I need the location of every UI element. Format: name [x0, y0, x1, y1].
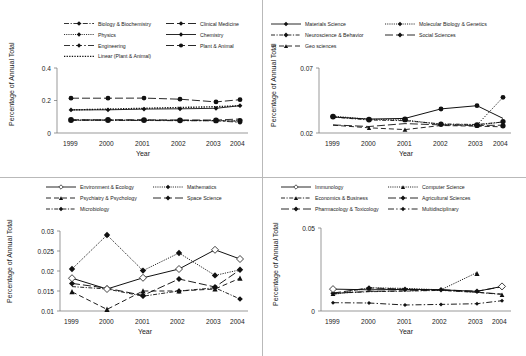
filled-diamond-icon [398, 33, 403, 38]
chart-panel-2: Materials Science Neuroscience & Behavio… [263, 0, 526, 178]
filled-diamond-icon [166, 196, 171, 201]
legend-label: Plant & Animal [200, 43, 234, 49]
x-axis-title: Year [138, 328, 153, 335]
legend-entry-chemistry: Chemistry [166, 32, 224, 38]
filled-diamond-icon [401, 196, 406, 201]
series-line-rising-trend [477, 97, 503, 125]
filled-circle-icon [179, 43, 183, 47]
x-tick-label: 2004 [492, 318, 507, 325]
legend-label: Psychiatry & Psychology [80, 195, 137, 201]
legend-label: Linear (Plant & Animal) [98, 53, 151, 59]
legend-label: Molecular Biology & Genetics [419, 21, 487, 27]
legend-label: Computer Science [422, 184, 465, 190]
legend-label: Social Sciences [419, 32, 456, 38]
panel-3-legend: Environment & Ecology Psychiatry & Psych… [46, 184, 222, 212]
x-tick-label: 1999 [325, 140, 340, 147]
filled-diamond-icon [77, 43, 81, 47]
y-tick-label: 0.01 [41, 308, 54, 315]
legend-entry-biology-biochemistry: Biology & Biochemistry [64, 21, 151, 27]
x-tick-label: 2003 [468, 318, 483, 325]
legend-label: Microbiology [80, 206, 110, 212]
x-tick-label: 2000 [99, 318, 114, 325]
panel-3-series [69, 232, 244, 312]
legend-entry-geo-sciences: Geo sciences [271, 43, 337, 49]
panel-1-svg: Biology & Biochemistry Physics Engineeri… [0, 0, 263, 178]
panel-2-series [330, 95, 506, 132]
x-tick-label: 2001 [397, 318, 412, 325]
panel-4-series [330, 271, 506, 307]
x-tick-label: 2004 [230, 318, 245, 325]
legend-entry-agricultural-sciences: Agricultural Sciences [388, 195, 471, 201]
y-tick-label: 0.4 [42, 65, 51, 72]
legend-label: Geo sciences [305, 43, 337, 49]
x-tick-label: 2000 [361, 140, 376, 147]
legend-entry-social-sciences: Social Sciences [385, 32, 456, 38]
legend-entry-pharmacology-toxicology: Pharmacology & Toxicology [281, 206, 379, 212]
x-tick-label: 2000 [361, 318, 376, 325]
y-tick-label: 0.05 [302, 225, 315, 232]
legend-entry-economics-business: Economics & Business [281, 195, 368, 201]
panel-1-yaxis-title: Percentage of Annual Total [8, 42, 16, 126]
legend-entry-psychiatry-psychology: Psychiatry & Psychology [46, 195, 137, 201]
x-tick-label: 1999 [63, 140, 78, 147]
legend-entry-computer-science: Computer Science [388, 184, 465, 190]
x-tick-label: 2003 [206, 140, 221, 147]
x-tick-label: 2003 [206, 318, 221, 325]
svg-text:Percentage of Annual Total: Percentage of Annual Total [8, 42, 16, 126]
legend-entry-space-science: Space Science [153, 195, 222, 201]
legend-entry-mathematics: Mathematics [153, 184, 217, 190]
x-tick-label: 2002 [432, 318, 447, 325]
series-line-psychiatry-psychology [72, 278, 240, 309]
legend-label: Chemistry [200, 32, 224, 38]
legend-label: Agricultural Sciences [422, 195, 471, 201]
x-tick-label: 2002 [433, 140, 448, 147]
legend-entry-linear-plant-animal: Linear (Plant & Animal) [64, 53, 151, 59]
legend-entry-physics: Physics [64, 32, 116, 38]
filled-diamond-icon [59, 207, 63, 211]
panel-4-svg: Immunology Economics & Business Pharmaco… [263, 178, 526, 356]
filled-diamond-icon [179, 32, 183, 36]
y-tick-label: 0.025 [37, 248, 54, 255]
panel-3-yaxis-title: Percentage of Annual Total [6, 219, 14, 303]
legend-entry-microbiology: Microbiology [46, 206, 110, 212]
x-tick-label: 2002 [170, 318, 185, 325]
legend-label: Mathematics [187, 184, 217, 190]
x-tick-label: 1999 [64, 318, 79, 325]
legend-label: Engineering [98, 43, 126, 49]
y-tick-label: 0.03 [41, 228, 54, 235]
panel-4-axes: 0.05 0 1999 2000 2001 2002 2003 2004 Yea… [302, 225, 511, 335]
x-tick-label: 2004 [230, 140, 245, 147]
panel-2-axes: 0.07 0.02 1999 2000 2001 2002 2003 2004 … [300, 65, 511, 157]
filled-diamond-icon [401, 207, 405, 211]
x-axis-title: Year [136, 150, 151, 157]
legend-label: Materials Science [305, 21, 346, 27]
legend-label: Space Science [187, 195, 222, 201]
legend-entry-multidisciplinary: Multidisciplinary [388, 206, 459, 212]
panel-3-svg: Environment & Ecology Psychiatry & Psych… [0, 178, 263, 356]
x-axis-title: Year [399, 150, 414, 157]
panel-2-yaxis-title: Percentage of Annual Total [270, 43, 278, 127]
x-tick-label: 2002 [171, 140, 186, 147]
panel-2-svg: Materials Science Neuroscience & Behavio… [263, 0, 526, 178]
legend-entry-engineering: Engineering [64, 43, 126, 49]
series-line-environment-ecology [72, 250, 240, 289]
y-tick-label: 0.02 [300, 130, 313, 137]
chart-panel-3: Environment & Ecology Psychiatry & Psych… [0, 178, 263, 356]
panel-3-markers [69, 232, 244, 312]
panel-1-series [68, 96, 243, 125]
filled-diamond-icon [284, 33, 289, 38]
legend-entry-immunology: Immunology [281, 184, 344, 190]
legend-label: Clinical Medicine [200, 21, 239, 27]
legend-label: Biology & Biochemistry [98, 21, 151, 27]
open-diamond-icon [59, 185, 63, 189]
x-tick-label: 2001 [397, 140, 412, 147]
chart-panel-4: Immunology Economics & Business Pharmaco… [263, 178, 526, 356]
open-diamond-icon [294, 185, 298, 189]
filled-diamond-icon [179, 21, 184, 26]
panel-4-yaxis-title: Percentage of Annual Total [272, 222, 280, 306]
filled-diamond-icon [294, 207, 299, 212]
y-tick-label: 0 [47, 130, 51, 137]
legend-label: Pharmacology & Toxicology [315, 206, 379, 212]
filled-diamond-icon [284, 22, 288, 26]
legend-label: Multidisciplinary [422, 206, 459, 212]
